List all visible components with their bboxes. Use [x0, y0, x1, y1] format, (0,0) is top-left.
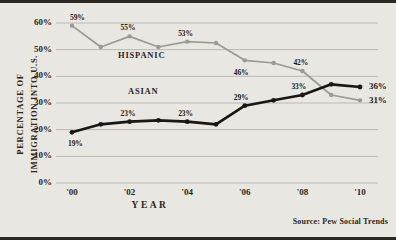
x-axis-tick-06: '06 — [225, 187, 265, 197]
series-label-hispanic: HISPANIC — [118, 50, 165, 60]
data-label-hispanic-2006: 46% — [234, 68, 249, 77]
data-label-hispanic-2010: 31% — [369, 95, 387, 105]
data-label-hispanic-2000: 59% — [70, 13, 85, 22]
data-label-hispanic-2004: 53% — [178, 29, 193, 38]
data-label-asian-2000: 19% — [68, 139, 83, 148]
y-axis-title: PERCENTAGE OF IMMIGRATION INTO U.S. — [2, 41, 32, 191]
data-point-hispanic-2002 — [127, 34, 131, 38]
data-point-hispanic-2006 — [243, 58, 247, 62]
data-point-asian-2004 — [185, 119, 190, 124]
series-label-asian: ASIAN — [128, 86, 158, 96]
y-axis-title-line1: PERCENTAGE OF — [15, 44, 25, 184]
data-label-asian-2006: 29% — [234, 93, 249, 102]
x-axis-title: YEAR — [0, 200, 300, 210]
y-axis-title-line2: IMMIGRATION INTO U.S. — [29, 44, 39, 184]
x-axis-tick-10: '10 — [340, 187, 380, 197]
data-point-hispanic-2004 — [185, 39, 189, 43]
y-axis-tick-30%: 30% — [16, 97, 52, 107]
data-point-asian-2010 — [358, 85, 363, 90]
y-axis-tick-10%: 10% — [16, 150, 52, 160]
data-label-asian-2008: 33% — [291, 82, 306, 91]
source-note: Source: Pew Social Trends — [293, 217, 388, 226]
data-point-hispanic-2001 — [99, 45, 103, 49]
x-axis-tick-04: '04 — [167, 187, 207, 197]
data-point-asian-2008 — [300, 93, 305, 98]
y-axis-tick-20%: 20% — [16, 124, 52, 134]
data-point-asian-2007 — [271, 98, 276, 103]
x-axis-tick-08: '08 — [282, 187, 322, 197]
data-label-asian-2010: 36% — [369, 81, 387, 91]
data-point-hispanic-2005 — [214, 41, 218, 45]
y-axis-tick-40%: 40% — [16, 70, 52, 80]
data-point-asian-2000 — [70, 130, 75, 135]
y-axis-tick-50%: 50% — [16, 44, 52, 54]
data-point-hispanic-2008 — [300, 69, 304, 73]
data-point-hispanic-2007 — [271, 61, 275, 65]
data-point-asian-2005 — [214, 122, 219, 127]
data-label-asian-2004: 23% — [178, 109, 193, 118]
data-point-hispanic-2000 — [70, 23, 74, 27]
data-point-asian-2009 — [329, 82, 334, 87]
chart-figure: PERCENTAGE OF IMMIGRATION INTO U.S. YEAR… — [0, 0, 396, 240]
y-axis-tick-60%: 60% — [16, 17, 52, 27]
data-point-hispanic-2010 — [358, 98, 362, 102]
x-axis-tick-02: '02 — [110, 187, 150, 197]
data-label-hispanic-2002: 55% — [121, 23, 136, 32]
data-label-hispanic-2008: 42% — [293, 58, 308, 67]
data-label-asian-2002: 23% — [121, 109, 136, 118]
x-axis-tick-00: '00 — [52, 187, 92, 197]
data-point-asian-2002 — [127, 119, 132, 124]
data-point-hispanic-2003 — [156, 45, 160, 49]
y-axis-tick-0%: 0% — [16, 177, 52, 187]
data-point-asian-2001 — [98, 122, 103, 127]
data-point-hispanic-2009 — [329, 93, 333, 97]
data-point-asian-2003 — [156, 118, 161, 123]
data-point-asian-2006 — [242, 103, 247, 108]
